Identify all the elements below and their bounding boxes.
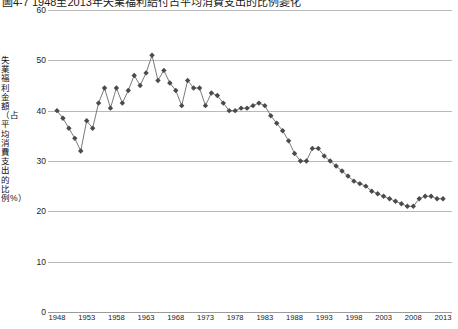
x-axis-tick-label: 1993: [316, 313, 333, 322]
data-point-marker: [440, 196, 445, 201]
data-point-marker: [357, 181, 362, 186]
data-point-marker: [72, 136, 77, 141]
plot-area: [48, 10, 452, 312]
data-point-marker: [209, 90, 214, 95]
data-point-marker: [238, 105, 243, 110]
data-point-marker: [250, 103, 255, 108]
x-axis-tick-label: 1948: [49, 313, 66, 322]
data-point-marker: [405, 204, 410, 209]
x-axis-tick-label: 1988: [286, 313, 303, 322]
data-point-marker: [381, 194, 386, 199]
data-point-marker: [132, 73, 137, 78]
data-point-marker: [78, 148, 83, 153]
x-axis-tick-label: 1953: [78, 313, 95, 322]
x-axis-tick-label: 1973: [197, 313, 214, 322]
data-point-marker: [304, 158, 309, 163]
data-point-marker: [399, 201, 404, 206]
data-series-line: [48, 10, 452, 312]
data-point-marker: [428, 194, 433, 199]
data-point-marker: [161, 68, 166, 73]
data-point-marker: [387, 196, 392, 201]
y-axis-tick-label: 50: [18, 55, 46, 65]
data-point-marker: [262, 103, 267, 108]
x-axis-tick-label: 1998: [345, 313, 362, 322]
data-point-marker: [179, 103, 184, 108]
x-axis-ticks: 1948195319581963196819731978198319881993…: [48, 313, 452, 327]
data-point-marker: [422, 194, 427, 199]
x-axis-tick-label: 1983: [256, 313, 273, 322]
data-point-marker: [310, 146, 315, 151]
data-point-marker: [143, 70, 148, 75]
data-point-marker: [155, 78, 160, 83]
y-axis-ticks: 0102030405060: [0, 0, 46, 329]
y-axis-tick-label: 40: [18, 106, 46, 116]
x-axis-tick-label: 1978: [227, 313, 244, 322]
data-point-marker: [197, 85, 202, 90]
y-axis-tick-label: 30: [18, 156, 46, 166]
data-point-marker: [203, 103, 208, 108]
x-axis-tick-label: 2003: [375, 313, 392, 322]
data-point-marker: [108, 105, 113, 110]
data-point-marker: [66, 126, 71, 131]
data-point-marker: [434, 196, 439, 201]
data-point-marker: [102, 85, 107, 90]
figure-caption: 圖4-7 1948至2013年失業福利給付占平均消費支出的比例變化: [0, 0, 458, 9]
data-point-marker: [232, 108, 237, 113]
y-axis-tick-label: 10: [18, 257, 46, 267]
y-axis-tick-label: 60: [18, 5, 46, 15]
data-point-marker: [244, 105, 249, 110]
x-axis-tick-label: 2008: [405, 313, 422, 322]
series-line: [57, 55, 443, 206]
x-axis-tick-label: 1958: [108, 313, 125, 322]
y-axis-tick-label: 20: [18, 206, 46, 216]
x-axis-tick-label: 2013: [435, 313, 452, 322]
data-point-marker: [393, 199, 398, 204]
data-point-marker: [137, 83, 142, 88]
x-axis-tick-label: 1968: [167, 313, 184, 322]
data-point-marker: [120, 100, 125, 105]
y-axis-tick-label: 0: [18, 307, 46, 317]
x-axis-tick-label: 1963: [138, 313, 155, 322]
data-point-marker: [286, 138, 291, 143]
data-point-marker: [149, 53, 154, 58]
data-point-marker: [375, 191, 380, 196]
data-point-marker: [126, 88, 131, 93]
chart-figure: 圖4-7 1948至2013年失業福利給付占平均消費支出的比例變化 失業福利金額…: [0, 0, 458, 329]
data-point-marker: [96, 100, 101, 105]
data-point-marker: [256, 100, 261, 105]
data-point-marker: [114, 85, 119, 90]
